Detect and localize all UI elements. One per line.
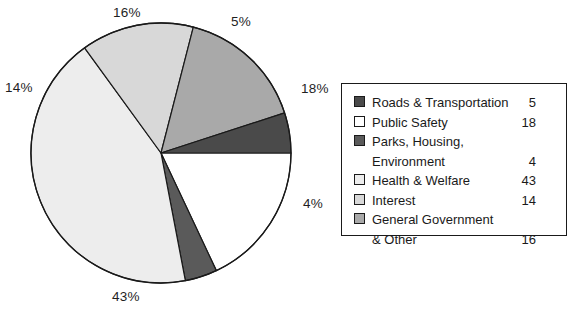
legend-value: 5 (510, 93, 536, 113)
legend-swatch-icon (354, 233, 365, 244)
legend-label: General Government (372, 210, 510, 230)
legend-row[interactable]: Health & Welfare43 (354, 171, 558, 191)
legend-swatch-icon (354, 116, 365, 127)
legend-label: Environment (372, 152, 510, 172)
legend-label: Parks, Housing, (372, 132, 510, 152)
legend-value: 18 (510, 113, 536, 133)
slice-label-general-government: 16% (113, 5, 141, 20)
legend-swatch-icon (354, 96, 365, 107)
legend-row[interactable]: Public Safety18 (354, 113, 558, 133)
legend-row[interactable]: General Government (354, 210, 558, 230)
legend-row[interactable]: Parks, Housing, (354, 132, 558, 152)
legend-row[interactable]: Roads & Transportation5 (354, 93, 558, 113)
legend-label: Health & Welfare (372, 171, 510, 191)
legend-label: & Other (372, 230, 510, 250)
slice-label-interest: 14% (5, 80, 33, 95)
legend-swatch-icon (354, 194, 365, 205)
legend-swatch-icon (354, 213, 365, 224)
pie-slices-group (31, 23, 291, 283)
slice-label-roads: 5% (231, 14, 251, 29)
legend-row[interactable]: Environment4 (354, 152, 558, 172)
legend-label: Public Safety (372, 113, 510, 133)
slice-label-parks-housing: 4% (303, 196, 323, 211)
legend-swatch-icon (354, 174, 365, 185)
legend-swatch-icon (354, 155, 365, 166)
legend-swatch-icon (354, 135, 365, 146)
legend-row[interactable]: & Other16 (354, 230, 558, 250)
slice-label-health-welfare: 43% (112, 289, 140, 304)
legend-label: Roads & Transportation (372, 93, 510, 113)
legend-label: Interest (372, 191, 510, 211)
legend-value: 14 (510, 191, 536, 211)
legend-row[interactable]: Interest14 (354, 191, 558, 211)
legend: Roads & Transportation5Public Safety18Pa… (341, 83, 567, 236)
legend-list: Roads & Transportation5Public Safety18Pa… (354, 93, 558, 249)
legend-value: 43 (510, 171, 536, 191)
legend-value: 16 (510, 230, 536, 250)
slice-label-public-safety: 18% (301, 81, 329, 96)
pie-chart-figure: 16% 5% 18% 4% 43% 14% Roads & Transporta… (0, 0, 576, 317)
legend-value: 4 (510, 152, 536, 172)
